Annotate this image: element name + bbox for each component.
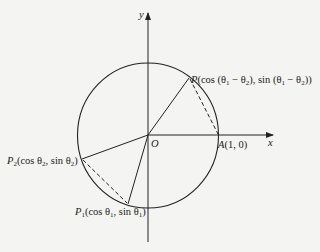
p2-text-3: ): [74, 155, 78, 166]
point-A-label: A(1, 0): [218, 140, 247, 151]
chord-P1P2: [83, 160, 127, 203]
p-text-5: )): [305, 74, 312, 85]
y-axis-label: y: [139, 10, 144, 21]
point-P2-label: P2(cos θ2, sin θ2): [7, 156, 78, 167]
p2-text-1: (cos θ: [17, 155, 42, 166]
p-text-2: − θ: [230, 74, 246, 85]
p2-text-2: , sin θ: [46, 155, 71, 166]
origin-label: O: [151, 139, 159, 150]
p-text-3: ), sin (θ: [249, 74, 281, 85]
p-text-1: (cos (θ: [197, 74, 226, 85]
unit-circle-diagram: [0, 0, 320, 252]
x-axis-label: x: [268, 138, 273, 149]
p1-text-1: (cos θ: [85, 206, 110, 217]
point-P-label: P(cos (θ1 − θ2), sin (θ1 − θ2)): [191, 75, 312, 86]
p1-text-2: , sin θ: [114, 206, 139, 217]
segment-OP: [148, 78, 189, 135]
p-text-4: − θ: [285, 74, 301, 85]
segment-OP1: [128, 135, 148, 204]
point-P1-label: P1(cos θ1, sin θ1): [75, 207, 146, 218]
chord-PA: [190, 79, 218, 134]
p1-text-3: ): [142, 206, 146, 217]
segment-OP2: [82, 135, 148, 159]
point-A-coords: (1, 0): [224, 139, 247, 150]
